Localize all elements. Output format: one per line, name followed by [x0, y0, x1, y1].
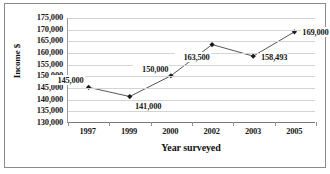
gridline — [68, 41, 315, 42]
data-point-label: 141,000 — [134, 101, 162, 111]
y-axis-tick-label: 155,000 — [37, 60, 63, 69]
y-axis-tick-label: 175,000 — [37, 13, 63, 22]
y-axis-tick-label: 130,000 — [37, 118, 63, 127]
gridline — [68, 111, 315, 112]
x-axis-tick-label: 1999 — [109, 126, 149, 136]
chart-screenshot: 175,000170,000165,000160,000155,000150,0… — [0, 0, 330, 174]
y-axis-tick-label: 160,000 — [37, 48, 63, 57]
data-point-marker — [251, 54, 256, 59]
x-axis-tick-labels: 199719992000200220032005 — [67, 126, 315, 140]
data-point-label: 145,000 — [49, 75, 85, 85]
gridline — [68, 65, 315, 66]
gridline — [68, 18, 315, 19]
y-axis-title: Income $ — [12, 23, 22, 99]
data-point-marker — [127, 94, 132, 99]
data-point-label: 158,493 — [260, 52, 288, 62]
y-axis-tick-label: 170,000 — [37, 25, 63, 34]
gridline — [68, 88, 315, 89]
data-point-label: 163,500 — [175, 52, 211, 62]
x-axis-tick-label: 2003 — [233, 126, 273, 136]
x-axis-tick-mark — [316, 122, 317, 126]
y-axis-tick-label: 135,000 — [37, 106, 63, 115]
line-series — [68, 18, 315, 122]
gridline — [68, 30, 315, 31]
gridline — [68, 100, 315, 101]
data-point-label: 150,000 — [133, 64, 169, 74]
x-axis-tick-label: 2000 — [150, 126, 190, 136]
gridline — [68, 76, 315, 77]
x-axis-tick-label: 2002 — [192, 126, 232, 136]
plot-area: 145,000141,000150,000163,500158,493169,0… — [67, 18, 315, 123]
x-axis-title: Year surveyed — [67, 142, 315, 153]
data-point-label: 169,000 — [301, 27, 329, 37]
y-axis-tick-label: 165,000 — [37, 36, 63, 45]
y-axis-tick-label: 140,000 — [37, 95, 63, 104]
chart-figure-frame: 175,000170,000165,000160,000155,000150,0… — [4, 3, 326, 168]
x-axis-tick-label: 1997 — [68, 126, 108, 136]
x-axis-tick-label: 2005 — [274, 126, 314, 136]
